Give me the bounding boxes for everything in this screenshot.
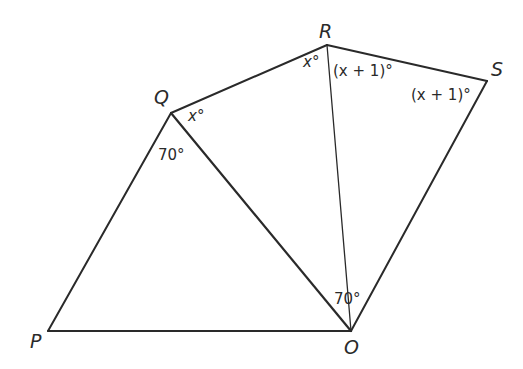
angle-label-RQO: x° <box>187 107 204 125</box>
segment-RO <box>327 45 351 331</box>
geometry-diagram: R S Q P O x° 70° x° (x + 1)° (x + 1)° 70… <box>0 0 523 369</box>
vertex-label-P: P <box>30 330 42 352</box>
vertex-label-R: R <box>319 20 332 42</box>
segment-SO <box>351 81 487 331</box>
angle-label-PQO: 70° <box>158 146 185 164</box>
angle-label-RSO: (x + 1)° <box>411 86 471 104</box>
vertex-label-Q: Q <box>154 86 169 108</box>
vertex-label-O: O <box>344 336 359 358</box>
angle-label-QRO: x° <box>302 53 319 71</box>
vertex-label-S: S <box>491 58 503 80</box>
segment-PQ <box>48 113 171 331</box>
angle-label-QOR: 70° <box>334 290 361 308</box>
segment-QO <box>171 113 351 331</box>
angle-label-ORS: (x + 1)° <box>333 62 393 80</box>
